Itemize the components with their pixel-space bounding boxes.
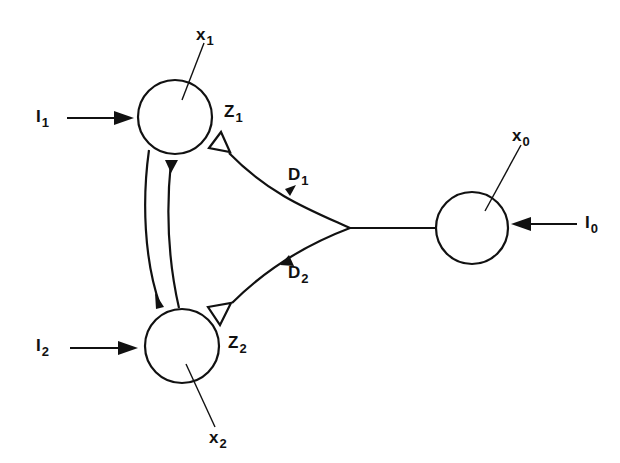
label-x2-sub: 2 <box>219 436 226 451</box>
synapse-z1-icon <box>209 132 230 152</box>
label-x1: x1 <box>196 26 214 43</box>
arrowhead-i0-icon <box>511 217 531 231</box>
label-x0-sub: 0 <box>522 134 529 149</box>
label-x2-main: x <box>209 428 218 447</box>
diagram-canvas: x1 x2 x0 I1 I2 I0 Z1 Z2 D1 D2 <box>0 0 620 463</box>
network-diagram <box>0 0 620 463</box>
label-i0-sub: 0 <box>591 221 598 236</box>
arrowhead-x2-to-x1-icon <box>165 160 178 173</box>
label-i2: I2 <box>36 337 49 354</box>
label-i0: I0 <box>585 214 598 231</box>
label-d1-main: D <box>288 165 300 184</box>
arrowhead-d1-icon <box>285 185 296 196</box>
connection-x1-to-x2 <box>145 150 160 305</box>
label-x0: x0 <box>512 127 530 144</box>
arrowhead-i1-icon <box>114 111 134 125</box>
label-i0-main: I <box>585 213 590 232</box>
label-i2-main: I <box>36 336 41 355</box>
label-x1-main: x <box>196 25 205 44</box>
node-x0-circle <box>436 192 508 264</box>
label-z1-sub: 1 <box>235 110 242 125</box>
label-d2: D2 <box>288 264 309 281</box>
pointer-x2 <box>186 364 215 427</box>
label-x0-main: x <box>512 126 521 145</box>
label-d2-sub: 2 <box>301 271 308 286</box>
arrowhead-x1-to-x2-icon <box>155 293 164 309</box>
node-x2-circle <box>145 309 219 383</box>
label-x1-sub: 1 <box>206 33 213 48</box>
label-z1-main: Z <box>224 102 234 121</box>
connection-x2-to-x1 <box>168 161 179 308</box>
synapse-z2-icon <box>208 303 231 325</box>
label-z2-main: Z <box>228 333 238 352</box>
label-d1-sub: 1 <box>301 173 308 188</box>
label-i1: I1 <box>36 108 49 125</box>
label-i1-main: I <box>36 107 41 126</box>
label-d1: D1 <box>288 166 309 183</box>
label-x2: x2 <box>209 429 227 446</box>
pointer-x0 <box>485 145 521 211</box>
node-x1-circle <box>138 80 212 154</box>
label-z2: Z2 <box>228 334 247 351</box>
label-z1: Z1 <box>224 103 243 120</box>
arrowhead-i2-icon <box>118 341 138 355</box>
label-i1-sub: 1 <box>42 115 49 130</box>
label-d2-main: D <box>288 263 300 282</box>
label-z2-sub: 2 <box>239 341 246 356</box>
label-i2-sub: 2 <box>42 344 49 359</box>
